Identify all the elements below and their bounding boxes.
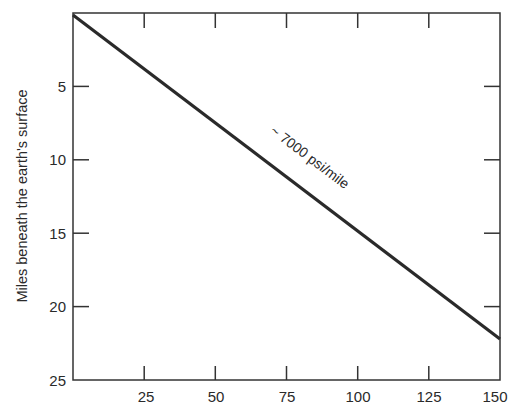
chart: 25 50 75 100 125 150 5 10 15 20 25 Miles… (0, 0, 517, 419)
y-tick-labels: 5 10 15 20 25 (49, 78, 66, 389)
x-ticks (144, 13, 429, 380)
plot-frame (73, 13, 500, 380)
y-axis-title: Miles beneath the earth's surface (14, 89, 30, 302)
gradient-annotation: ~ 7000 psi/mile (267, 122, 352, 192)
x-tick-label: 125 (416, 388, 441, 405)
y-tick-label: 10 (49, 151, 66, 168)
y-ticks (73, 86, 500, 306)
y-tick-label: 20 (49, 298, 66, 315)
x-tick-label: 100 (345, 388, 370, 405)
y-tick-label: 5 (58, 78, 66, 95)
y-tick-label: 15 (49, 225, 66, 242)
x-tick-label: 50 (208, 388, 225, 405)
x-tick-label: 25 (138, 388, 155, 405)
y-tick-label: 25 (49, 372, 66, 389)
x-tick-label: 150 (482, 388, 507, 405)
x-tick-label: 75 (279, 388, 296, 405)
pressure-line (73, 15, 500, 339)
x-tick-labels: 25 50 75 100 125 150 (138, 388, 508, 405)
